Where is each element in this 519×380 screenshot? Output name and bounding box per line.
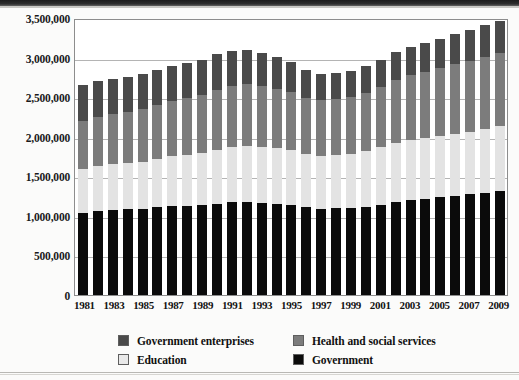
x-axis-tick-label: 2007 (459, 299, 480, 311)
bar-segment (495, 191, 505, 295)
legend-item-education: Education (118, 354, 293, 366)
bar-segment (257, 86, 267, 147)
bar-1984[interactable] (123, 77, 133, 295)
legend-swatch-icon (118, 354, 129, 365)
bar-segment (391, 202, 401, 295)
bar-segment (242, 84, 252, 146)
bar-segment (361, 151, 371, 207)
bar-segment (93, 211, 103, 295)
bar-segment (450, 64, 460, 133)
bar-segment (78, 85, 88, 121)
x-axis-tick-label: 1995 (281, 299, 302, 311)
bar-1981[interactable] (78, 85, 88, 295)
bar-1989[interactable] (197, 60, 207, 295)
bar-segment (152, 70, 162, 105)
bar-segment (420, 72, 430, 138)
bar-2009[interactable] (495, 21, 505, 295)
bar-segment (286, 205, 296, 295)
bar-segment (197, 60, 207, 95)
legend-item-government: Government (293, 354, 373, 366)
x-axis-tick-label: 1985 (133, 299, 154, 311)
y-axis-tick-label: 0 (64, 290, 70, 302)
bar-1988[interactable] (182, 63, 192, 295)
bar-segment (272, 148, 282, 204)
x-axis-tick-label: 2005 (429, 299, 450, 311)
bar-segment (420, 199, 430, 295)
bar-segment (286, 150, 296, 205)
y-axis-tick-label: 1,500,000 (26, 171, 70, 183)
bar-2002[interactable] (391, 52, 401, 295)
bar-segment (138, 162, 148, 209)
bar-segment (123, 77, 133, 112)
bar-segment (182, 206, 192, 295)
bar-1983[interactable] (108, 79, 118, 295)
page-bottom-rule (0, 372, 519, 373)
page-bottom-rule-secondary (0, 374, 519, 375)
x-axis-tick-label: 1983 (104, 299, 125, 311)
bar-segment (391, 52, 401, 79)
bar-segment (435, 39, 445, 68)
bar-2000[interactable] (361, 66, 371, 295)
bar-segment (435, 136, 445, 197)
bar-segment (138, 209, 148, 295)
bar-segment (286, 92, 296, 150)
bar-segment (108, 210, 118, 295)
bar-1992[interactable] (242, 50, 252, 295)
legend-swatch-icon (118, 335, 129, 346)
bar-1991[interactable] (227, 51, 237, 295)
bar-segment (420, 43, 430, 72)
bar-1990[interactable] (212, 54, 222, 295)
y-axis-labels: 0500,0001,000,0001,500,0002,000,0002,500… (0, 0, 70, 315)
bar-1985[interactable] (138, 74, 148, 295)
bar-segment (480, 129, 490, 193)
bars-container (75, 20, 507, 295)
x-axis-tick-label: 1981 (74, 299, 95, 311)
bar-1982[interactable] (93, 81, 103, 295)
legend-swatch-icon (293, 335, 304, 346)
bar-2001[interactable] (376, 60, 386, 295)
bar-segment (406, 75, 416, 140)
bar-2006[interactable] (450, 34, 460, 295)
bar-segment (167, 66, 177, 101)
bar-segment (301, 70, 311, 98)
bar-segment (346, 208, 356, 295)
bar-segment (227, 86, 237, 147)
bar-segment (152, 105, 162, 159)
bar-1998[interactable] (331, 73, 341, 295)
bar-2008[interactable] (480, 25, 490, 295)
bar-segment (152, 159, 162, 208)
bar-segment (257, 203, 267, 295)
bar-1996[interactable] (301, 70, 311, 295)
bar-1997[interactable] (316, 74, 326, 295)
legend-item-health-and-social-services: Health and social services (293, 335, 436, 347)
bar-segment (435, 68, 445, 136)
x-axis-tick-label: 2003 (399, 299, 420, 311)
bar-1994[interactable] (272, 57, 282, 295)
bar-1986[interactable] (152, 70, 162, 295)
bar-1999[interactable] (346, 71, 356, 295)
bar-segment (316, 74, 326, 101)
bar-2003[interactable] (406, 47, 416, 295)
y-axis-tick-label: 3,000,000 (26, 53, 70, 65)
bar-segment (93, 166, 103, 211)
legend-label: Government enterprises (137, 335, 254, 347)
bar-segment (316, 100, 326, 155)
bar-segment (93, 81, 103, 117)
x-axis-tick-label: 1987 (163, 299, 184, 311)
bar-segment (152, 207, 162, 295)
bar-1987[interactable] (167, 66, 177, 295)
legend-row-2: Education Government (118, 350, 518, 369)
legend-row-1: Government enterprises Health and social… (118, 331, 518, 350)
bar-segment (361, 93, 371, 152)
bar-2007[interactable] (465, 30, 475, 295)
bar-segment (465, 194, 475, 295)
bar-2004[interactable] (420, 43, 430, 295)
bar-segment (406, 47, 416, 75)
y-axis-tick-label: 2,500,000 (26, 92, 70, 104)
bar-1995[interactable] (286, 62, 296, 295)
x-axis-tick-label: 1993 (252, 299, 273, 311)
bar-1993[interactable] (257, 53, 267, 295)
bar-2005[interactable] (435, 39, 445, 295)
bar-segment (376, 60, 386, 87)
bar-segment (316, 209, 326, 295)
